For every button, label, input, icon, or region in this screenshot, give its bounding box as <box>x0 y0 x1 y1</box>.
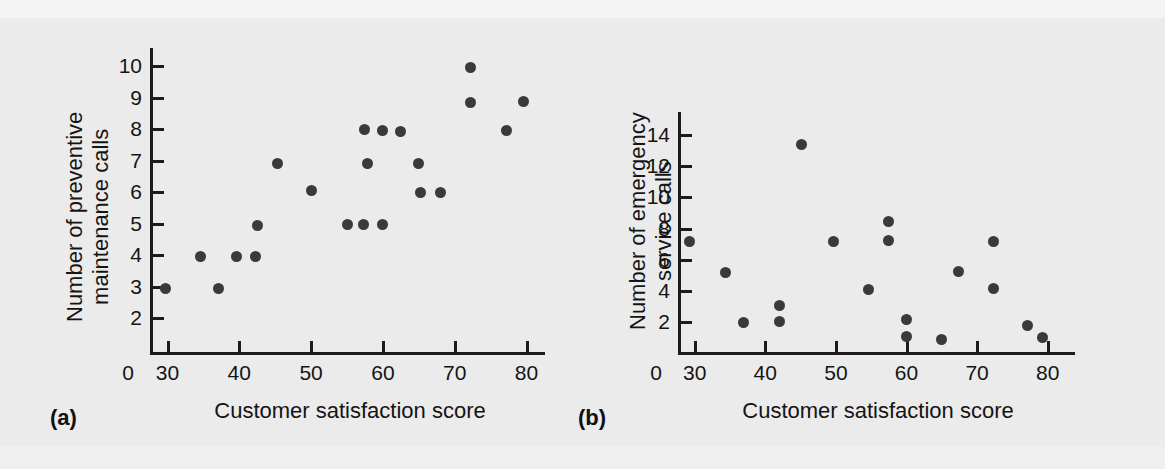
x-tick-b-40 <box>764 341 767 352</box>
x-axis-line-a <box>150 352 545 355</box>
y-axis-line-a <box>150 48 153 352</box>
x-tick-label-b-40: 40 <box>740 362 790 383</box>
panel-label-b: (b) <box>578 405 606 431</box>
y-tick-b-12 <box>681 165 692 168</box>
data-point <box>377 125 388 136</box>
x-tick-b-30 <box>694 341 697 352</box>
x-tick-b-60 <box>906 341 909 352</box>
data-point <box>250 251 261 262</box>
y-axis-title-b-line2: service calls <box>651 161 676 281</box>
y-tick-a-4 <box>153 254 164 257</box>
x-tick-label-b-0: 0 <box>631 362 681 383</box>
data-point <box>362 158 373 169</box>
x-tick-label-a-70: 70 <box>430 362 480 383</box>
x-tick-a-30 <box>167 341 170 352</box>
x-tick-label-a-50: 50 <box>286 362 336 383</box>
paper-top-band <box>0 0 1165 18</box>
y-tick-a-2 <box>153 317 164 320</box>
data-point <box>883 235 894 246</box>
data-point <box>501 125 512 136</box>
data-point <box>415 187 426 198</box>
y-tick-b-6 <box>681 259 692 262</box>
data-point <box>195 251 206 262</box>
x-axis-title-a: Customer satisfaction score <box>180 398 520 424</box>
y-tick-a-8 <box>153 128 164 131</box>
data-point <box>272 158 283 169</box>
data-point <box>342 219 353 230</box>
data-point <box>377 219 388 230</box>
x-tick-a-70 <box>454 341 457 352</box>
data-point <box>359 124 370 135</box>
figure-container: 23456789103040506070800 Number of preven… <box>0 0 1165 469</box>
x-axis-line-b <box>678 352 1075 355</box>
y-tick-a-7 <box>153 160 164 163</box>
data-point <box>1022 320 1033 331</box>
data-point <box>213 283 224 294</box>
panel-label-a: (a) <box>50 405 77 431</box>
data-point <box>796 139 807 150</box>
y-tick-b-14 <box>681 134 692 137</box>
data-point <box>395 126 406 137</box>
data-point <box>953 266 964 277</box>
data-point <box>988 236 999 247</box>
data-point <box>465 62 476 73</box>
y-tick-a-6 <box>153 191 164 194</box>
data-point <box>883 216 894 227</box>
y-axis-title-a-line2: maintenance calls <box>88 129 113 305</box>
data-point <box>435 187 446 198</box>
data-point <box>518 96 529 107</box>
x-tick-a-80 <box>526 341 529 352</box>
data-point <box>828 236 839 247</box>
data-point <box>252 220 263 231</box>
y-axis-title-b-line1: Number of emergency <box>625 112 650 330</box>
data-point <box>774 300 785 311</box>
y-tick-b-2 <box>681 321 692 324</box>
y-axis-title-a: Number of preventive maintenance calls <box>62 112 114 322</box>
data-point <box>988 283 999 294</box>
data-point <box>231 251 242 262</box>
data-point <box>684 236 695 247</box>
x-tick-a-40 <box>238 341 241 352</box>
data-point <box>413 158 424 169</box>
x-tick-label-b-70: 70 <box>952 362 1002 383</box>
x-tick-label-a-0: 0 <box>103 362 153 383</box>
data-point <box>901 314 912 325</box>
y-tick-label-a-9: 9 <box>98 87 142 108</box>
x-tick-b-50 <box>835 341 838 352</box>
x-tick-a-50 <box>310 341 313 352</box>
data-point <box>465 97 476 108</box>
y-tick-label-a-10: 10 <box>98 55 142 76</box>
y-tick-b-8 <box>681 228 692 231</box>
y-axis-title-a-line1: Number of preventive <box>62 112 87 322</box>
data-point <box>774 316 785 327</box>
x-tick-label-b-50: 50 <box>811 362 861 383</box>
data-point <box>720 267 731 278</box>
y-tick-b-4 <box>681 290 692 293</box>
x-tick-label-b-80: 80 <box>1023 362 1073 383</box>
data-point <box>306 185 317 196</box>
y-tick-b-10 <box>681 196 692 199</box>
x-tick-b-70 <box>976 341 979 352</box>
x-axis-title-b: Customer satisfaction score <box>708 398 1048 424</box>
data-point <box>936 334 947 345</box>
y-axis-line-b <box>678 112 681 352</box>
data-point <box>738 317 749 328</box>
data-point <box>901 331 912 342</box>
x-tick-label-a-40: 40 <box>214 362 264 383</box>
data-point <box>160 283 171 294</box>
data-point <box>863 284 874 295</box>
y-tick-a-5 <box>153 223 164 226</box>
x-tick-b-80 <box>1047 341 1050 352</box>
x-tick-label-b-60: 60 <box>882 362 932 383</box>
x-tick-a-60 <box>382 341 385 352</box>
y-axis-title-b: Number of emergency service calls <box>625 112 677 330</box>
x-tick-label-a-80: 80 <box>502 362 552 383</box>
paper-bottom-band <box>0 447 1165 469</box>
data-point <box>358 219 369 230</box>
y-tick-a-9 <box>153 97 164 100</box>
y-tick-a-10 <box>153 65 164 68</box>
x-tick-label-a-60: 60 <box>358 362 408 383</box>
